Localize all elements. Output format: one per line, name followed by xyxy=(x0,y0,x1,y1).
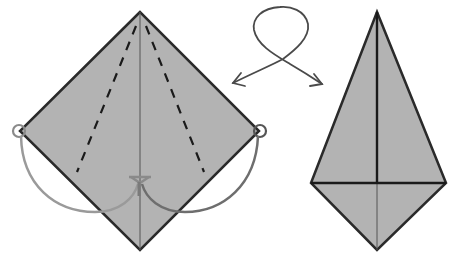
kite-paper xyxy=(311,12,446,250)
origami-diagram: Origami fold step: fold side corners to … xyxy=(0,0,453,259)
diagram-canvas xyxy=(0,0,453,259)
step-after-kite xyxy=(311,12,446,250)
turn-over-arrow-icon xyxy=(233,7,322,86)
step-before-diamond xyxy=(13,12,266,250)
